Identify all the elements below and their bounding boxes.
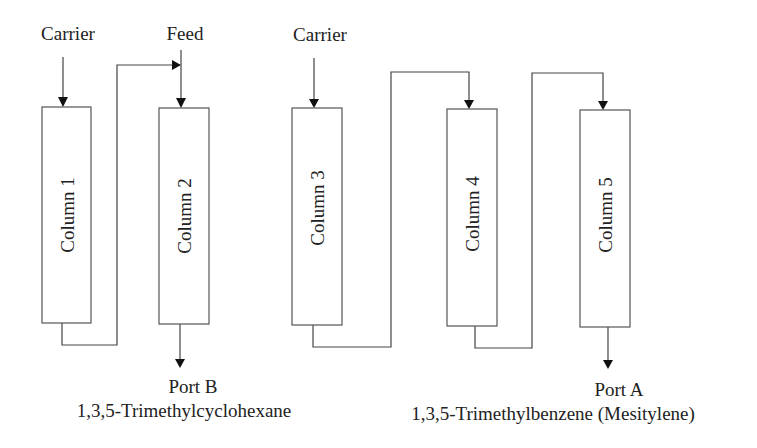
arrow-head-icon [309, 99, 319, 108]
arrow-head-icon [58, 97, 68, 107]
column-2: Column 2 [159, 108, 209, 324]
column-1: Column 1 [42, 107, 91, 323]
carrier-2-label: Carrier [293, 24, 347, 45]
port-b-label: Port B [168, 376, 217, 397]
carrier-2-line [309, 58, 319, 108]
column-4: Column 4 [447, 109, 497, 326]
column-4-label: Column 4 [462, 176, 483, 252]
column-2-label: Column 2 [174, 178, 195, 253]
column-5: Column 5 [580, 110, 630, 327]
port-a-compound: 1,3,5-Trimethylbenzene (Mesitylene) [411, 403, 695, 425]
column-5-label: Column 5 [595, 177, 616, 252]
arrow-head-icon [603, 360, 613, 369]
carrier-1-line [58, 57, 68, 107]
column-1-label: Column 1 [57, 177, 78, 252]
carrier-1-label: Carrier [41, 23, 95, 44]
arrow-head-icon [176, 98, 186, 108]
feed-line [176, 50, 186, 108]
feed-label: Feed [167, 23, 204, 44]
arrow-head-icon [172, 60, 181, 70]
port-a-label: Port A [594, 379, 643, 400]
arrow-head-icon [598, 101, 608, 110]
column-3: Column 3 [292, 108, 342, 325]
port-b-compound: 1,3,5-Trimethylcyclohexane [77, 400, 292, 421]
arrow-head-icon [464, 100, 474, 109]
separation-diagram: Carrier Feed Carrier Column 1 Col [0, 0, 757, 448]
port-b-line [175, 324, 185, 368]
arrow-head-icon [175, 359, 185, 368]
column-3-label: Column 3 [307, 170, 328, 245]
port-a-line [603, 327, 613, 369]
